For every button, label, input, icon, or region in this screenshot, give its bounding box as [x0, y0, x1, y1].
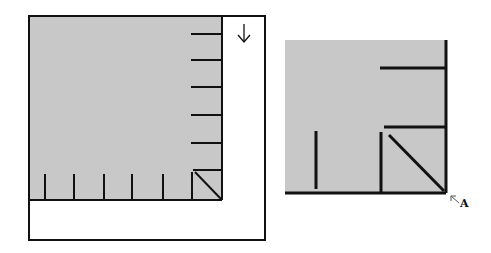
left-panel [29, 16, 265, 240]
right-panel: A [285, 40, 469, 210]
corner-pointer-arrow-icon [451, 196, 459, 203]
left-gray-square [29, 16, 222, 200]
diagram-canvas: A [0, 0, 491, 253]
corner-label-a: A [459, 197, 469, 210]
